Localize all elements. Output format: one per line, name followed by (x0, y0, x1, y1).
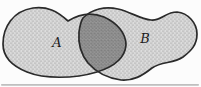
baseline-artifact (1, 84, 199, 86)
set-a-label: A (51, 35, 61, 50)
venn-diagram-canvas: A B (0, 0, 201, 87)
venn-diagram-figure: A B (0, 0, 201, 87)
set-b-label: B (139, 31, 150, 46)
